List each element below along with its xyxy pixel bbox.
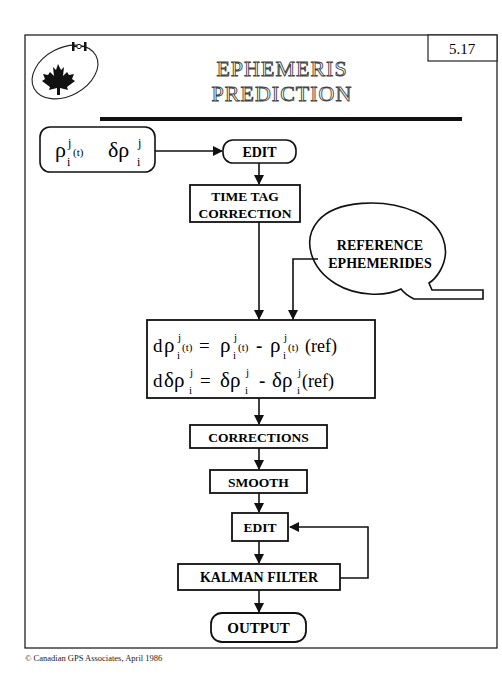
edit-node-1: EDIT (223, 140, 296, 163)
logo-icon (23, 34, 107, 109)
arrow-reference-to-equations (293, 259, 318, 319)
page-number-box: 5.17 (428, 35, 497, 61)
input-observables-box: ρ j i (t) δρ j i (40, 127, 155, 172)
svg-text:KALMAN FILTER: KALMAN FILTER (200, 570, 319, 585)
svg-text:δρ: δρ (108, 137, 129, 162)
svg-text:EDIT: EDIT (243, 520, 276, 535)
svg-text:d: d (153, 335, 163, 356)
svg-text:i: i (189, 384, 192, 396)
svg-text:CORRECTION: CORRECTION (198, 206, 291, 221)
svg-text:d: d (153, 370, 163, 391)
svg-text:ρ: ρ (270, 333, 280, 357)
slide-canvas: 5.17 EPHEMERIS PREDICTION ρ j i (t) δρ j… (0, 0, 502, 678)
svg-text:i: i (297, 384, 300, 396)
svg-text:(ref): (ref) (305, 336, 337, 357)
time-tag-correction-node: TIME TAG CORRECTION (190, 185, 300, 222)
svg-text:i: i (233, 349, 236, 361)
svg-text:j: j (67, 136, 71, 150)
svg-text:j: j (189, 366, 193, 378)
svg-text:(ref): (ref) (302, 371, 334, 392)
svg-text:δρ: δρ (272, 368, 292, 392)
output-node: OUTPUT (211, 613, 306, 642)
svg-text:j: j (283, 331, 287, 343)
svg-text:i: i (283, 349, 286, 361)
svg-text:j: j (177, 331, 181, 343)
svg-text:j: j (297, 366, 301, 378)
svg-text:j: j (245, 366, 249, 378)
svg-text:i: i (177, 349, 180, 361)
corrections-node: CORRECTIONS (190, 425, 327, 448)
differencing-equations-box: d ρ j i (t) = ρ j i (t) - ρ j i (t) (ref… (147, 320, 375, 398)
reference-ephemerides-node: REFERENCE EPHEMERIDES (310, 203, 483, 299)
svg-text:SMOOTH: SMOOTH (228, 475, 289, 490)
svg-text:(t): (t) (238, 341, 249, 354)
svg-text:-: - (256, 335, 262, 356)
title-line-2: PREDICTION (212, 81, 353, 106)
svg-text:OUTPUT: OUTPUT (227, 620, 290, 636)
page-number: 5.17 (449, 41, 476, 57)
satellite-icon (72, 42, 87, 51)
svg-text:(t): (t) (73, 146, 84, 159)
svg-text:j: j (233, 331, 237, 343)
svg-text:(t): (t) (288, 341, 299, 354)
svg-text:-: - (259, 370, 265, 391)
svg-text:(t): (t) (182, 341, 193, 354)
edit-node-2: EDIT (232, 513, 288, 541)
svg-text:ρ: ρ (164, 333, 174, 357)
svg-text:δρ: δρ (164, 368, 184, 392)
copyright-footer: © Canadian GPS Associates, April 1986 (25, 653, 162, 663)
smooth-node: SMOOTH (210, 470, 307, 493)
svg-text:i: i (245, 384, 248, 396)
svg-text:=: = (199, 335, 210, 356)
svg-text:EDIT: EDIT (242, 145, 277, 160)
title-line-1: EPHEMERIS (216, 56, 347, 81)
maple-leaf-icon (42, 64, 75, 95)
svg-text:ρ: ρ (220, 333, 230, 357)
svg-text:TIME TAG: TIME TAG (211, 189, 279, 204)
svg-text:=: = (200, 370, 211, 391)
svg-text:REFERENCE: REFERENCE (337, 238, 423, 253)
svg-text:j: j (137, 136, 141, 150)
svg-text:ρ: ρ (55, 137, 66, 162)
svg-text:δρ: δρ (220, 368, 240, 392)
svg-text:CORRECTIONS: CORRECTIONS (208, 430, 309, 445)
svg-text:EPHEMERIDES: EPHEMERIDES (328, 256, 432, 271)
kalman-filter-node: KALMAN FILTER (178, 564, 340, 590)
title-underline (100, 117, 462, 121)
